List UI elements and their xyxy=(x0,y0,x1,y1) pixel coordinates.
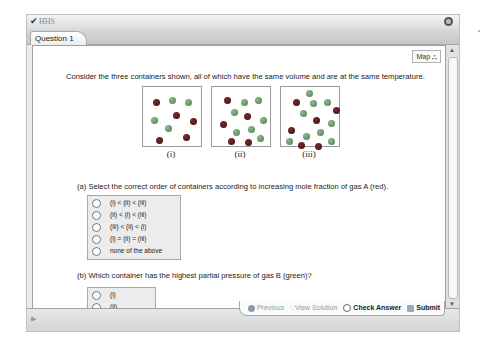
molecule-gas-b xyxy=(255,97,262,104)
app-window: ✔ HHS Question 1 Map ⛬ Consider the thre… xyxy=(26,14,460,332)
molecule-gas-b xyxy=(241,99,248,106)
molecule-gas-a xyxy=(190,118,197,125)
molecule-gas-a xyxy=(224,97,231,104)
radio-button[interactable] xyxy=(92,247,101,256)
molecule-gas-a xyxy=(183,134,190,141)
part-a-prompt: (a) Select the correct order of containe… xyxy=(77,182,388,191)
scroll-left-arrow-icon[interactable]: ▶ xyxy=(31,315,36,323)
molecule-gas-b xyxy=(286,138,293,145)
part-a-option-1[interactable]: (i) < (ii) < (iii) xyxy=(92,198,146,208)
molecule-gas-b xyxy=(324,99,331,106)
question-panel: Map ⛬ Consider the three containers show… xyxy=(32,45,447,311)
molecule-gas-a xyxy=(313,117,320,124)
scroll-up-arrow-icon[interactable]: ▲ xyxy=(446,45,458,55)
tab-bar: Question 1 xyxy=(27,29,459,45)
container-i xyxy=(142,86,202,147)
molecule-gas-b xyxy=(185,99,192,106)
molecule-gas-b xyxy=(303,133,310,140)
checkmark-logo-icon: ✔ xyxy=(30,16,38,26)
question-intro: Consider the three containers shown, all… xyxy=(66,72,425,81)
radio-button[interactable] xyxy=(92,211,101,220)
submit-button[interactable]: Submit xyxy=(407,301,440,315)
molecule-gas-a xyxy=(173,112,180,119)
previous-button[interactable]: Previous xyxy=(248,301,284,315)
part-a-choices: (i) < (ii) < (iii) (ii) < (i) < (iii) (i… xyxy=(87,195,181,260)
radio-button[interactable] xyxy=(92,235,101,244)
molecule-gas-a xyxy=(244,113,251,120)
tab-question-1[interactable]: Question 1 xyxy=(30,31,87,45)
previous-icon xyxy=(248,305,255,312)
decorative-dot xyxy=(478,30,480,32)
part-a-option-2[interactable]: (ii) < (i) < (iii) xyxy=(92,210,146,220)
part-b-prompt: (b) Which container has the highest part… xyxy=(77,271,312,280)
molecule-gas-b xyxy=(310,100,317,107)
map-button[interactable]: Map ⛬ xyxy=(412,50,441,63)
bottom-bar: ▶ Previous 💡︎View Solution Check Answer … xyxy=(27,308,459,331)
container-ii xyxy=(211,86,271,147)
molecule-gas-b xyxy=(151,117,158,124)
molecule-gas-b xyxy=(328,138,335,145)
molecule-gas-b xyxy=(233,129,240,136)
molecule-gas-b xyxy=(169,97,176,104)
radio-button[interactable] xyxy=(92,223,101,232)
molecule-gas-a xyxy=(153,99,160,106)
container-label-ii: (ii) xyxy=(211,149,269,159)
container-label-i: (i) xyxy=(142,149,200,159)
part-a-option-3[interactable]: (iii) < (ii) < (i) xyxy=(92,222,146,232)
molecule-gas-a xyxy=(220,121,227,128)
part-a-option-5[interactable]: none of the above xyxy=(92,246,162,256)
radio-button[interactable] xyxy=(92,291,101,300)
molecule-gas-a xyxy=(245,139,252,146)
refresh-icon[interactable] xyxy=(444,17,453,26)
molecule-gas-b xyxy=(260,117,267,124)
footer-actions: Previous 💡︎View Solution Check Answer Su… xyxy=(239,301,445,316)
part-b-option-1[interactable]: (i) xyxy=(92,290,116,300)
part-a-option-4[interactable]: (i) = (ii) = (iii) xyxy=(92,234,146,244)
molecule-gas-a xyxy=(293,99,300,106)
molecule-gas-b xyxy=(306,90,313,97)
map-label: Map xyxy=(416,53,430,60)
molecule-gas-b xyxy=(248,126,255,133)
window-title: HHS xyxy=(39,17,55,26)
map-icon: ⛬ xyxy=(432,53,437,60)
molecule-gas-b xyxy=(165,125,172,132)
molecule-gas-b xyxy=(257,135,264,142)
molecule-gas-b xyxy=(231,109,238,116)
radio-button[interactable] xyxy=(92,199,101,208)
submit-icon xyxy=(407,305,414,312)
molecule-gas-b xyxy=(300,110,307,117)
molecule-gas-a xyxy=(298,142,305,149)
container-iii xyxy=(280,86,340,147)
molecule-gas-b xyxy=(317,129,324,136)
title-bar: ✔ HHS xyxy=(27,15,459,30)
vertical-scrollbar[interactable]: ▲ ▼ xyxy=(445,45,459,309)
check-answer-button[interactable]: Check Answer xyxy=(343,301,401,315)
molecule-gas-a xyxy=(228,138,235,145)
molecule-gas-a xyxy=(156,137,163,144)
molecule-gas-a xyxy=(288,127,295,134)
view-solution-button[interactable]: 💡︎View Solution xyxy=(290,301,337,315)
molecule-gas-a xyxy=(333,107,340,114)
check-icon xyxy=(343,304,351,312)
scroll-thumb[interactable] xyxy=(448,57,458,299)
container-label-iii: (iii) xyxy=(280,149,338,159)
molecule-gas-b xyxy=(328,120,335,127)
